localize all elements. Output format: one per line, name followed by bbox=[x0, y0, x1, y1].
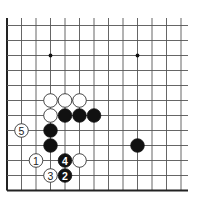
move-number-label: 2 bbox=[62, 170, 68, 182]
black-stone bbox=[44, 124, 58, 138]
star-point-icon bbox=[136, 54, 140, 58]
star-point-icon bbox=[49, 54, 53, 58]
go-board: 12345 bbox=[0, 0, 203, 202]
move-number-label: 3 bbox=[48, 170, 54, 182]
black-stone bbox=[44, 139, 58, 153]
black-stone bbox=[87, 109, 101, 123]
move-2: 2 bbox=[58, 169, 72, 183]
move-5: 5 bbox=[15, 124, 29, 138]
white-stone bbox=[44, 94, 58, 108]
white-stone bbox=[44, 109, 58, 123]
black-stone bbox=[58, 109, 72, 123]
white-stone bbox=[73, 154, 87, 168]
move-1: 1 bbox=[29, 154, 43, 168]
white-stone bbox=[73, 94, 87, 108]
move-3: 3 bbox=[44, 169, 58, 183]
move-number-label: 1 bbox=[33, 155, 39, 167]
move-4: 4 bbox=[58, 154, 72, 168]
move-number-label: 5 bbox=[19, 125, 25, 137]
move-number-label: 4 bbox=[62, 155, 68, 167]
numbered-moves-layer: 12345 bbox=[15, 124, 72, 183]
white-stone bbox=[58, 94, 72, 108]
black-stone bbox=[73, 109, 87, 123]
black-stone bbox=[131, 139, 145, 153]
